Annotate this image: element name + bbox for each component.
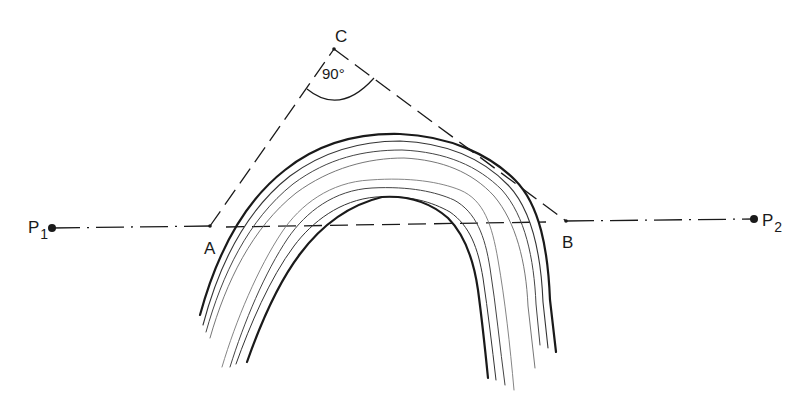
label-p2-subscript: 2: [774, 219, 782, 235]
point-p2-dot: [750, 215, 758, 223]
point-b-dot: [564, 219, 568, 223]
angle-label: 90°: [322, 66, 345, 81]
points: [48, 47, 758, 232]
label-a: A: [204, 240, 215, 257]
point-a-dot: [208, 224, 212, 228]
construction-lines: [52, 49, 754, 228]
label-b-text: B: [562, 233, 573, 252]
angle-label-text: 90°: [322, 65, 345, 82]
label-c-text: C: [335, 27, 347, 46]
line-p1-a: [52, 226, 210, 228]
line-a-b: [226, 222, 546, 227]
point-c-dot: [332, 47, 336, 51]
inner-layer-3: [236, 197, 496, 380]
label-p1: P1: [28, 219, 47, 236]
diagram-canvas: P1 A C B P2 90°: [0, 0, 806, 403]
label-a-text: A: [204, 239, 215, 258]
label-b: B: [562, 234, 573, 251]
outer-layer-3: [206, 150, 540, 345]
fold-diagram: [0, 0, 806, 403]
point-p1-dot: [48, 224, 56, 232]
label-p2: P2: [762, 212, 781, 229]
line-b-p2: [566, 219, 754, 221]
outer-fold-layers: [200, 134, 556, 368]
label-p1-text: P: [28, 218, 39, 237]
outer-layer-4: [210, 158, 535, 368]
label-p2-text: P: [762, 211, 773, 230]
label-p1-subscript: 1: [40, 226, 48, 242]
line-a-c: [210, 49, 334, 226]
label-c: C: [335, 28, 347, 45]
